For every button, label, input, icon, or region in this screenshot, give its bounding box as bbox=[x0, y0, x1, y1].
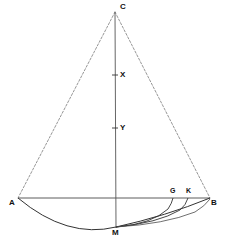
vertex-label-a: A bbox=[9, 199, 15, 207]
triangle-side-cb bbox=[115, 12, 210, 198]
geometry-figure: C A B M G K X Y bbox=[0, 0, 227, 242]
triangle-side-ca bbox=[18, 12, 115, 198]
axis-cm bbox=[115, 12, 116, 228]
vertex-label-m: M bbox=[112, 229, 119, 237]
vertex-label-c: C bbox=[120, 3, 126, 11]
axis-label-x: X bbox=[120, 71, 125, 79]
arc-mk bbox=[116, 198, 188, 227]
figure-canvas bbox=[0, 0, 227, 242]
vertex-label-k: K bbox=[186, 187, 191, 194]
vertex-label-g: G bbox=[170, 187, 175, 194]
arc-amb bbox=[18, 198, 210, 230]
vertex-label-b: B bbox=[211, 199, 217, 207]
axis-label-y: Y bbox=[120, 124, 125, 132]
